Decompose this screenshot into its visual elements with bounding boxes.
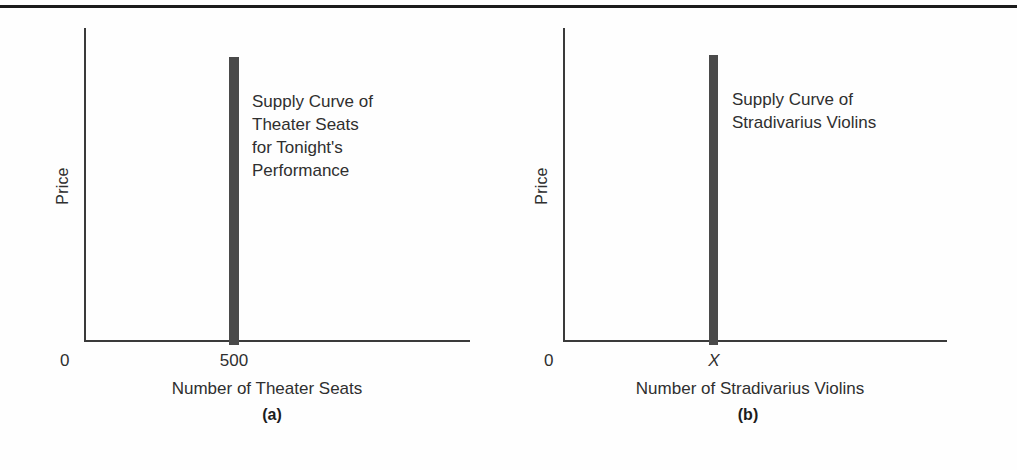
x-axis-origin-label-a: 0 — [60, 351, 69, 371]
y-axis-title-a: Price — [54, 156, 72, 216]
x-axis-tick-label-b: X — [674, 351, 754, 371]
chart-panel-b: Price Supply Curve of Stradivarius Violi… — [480, 0, 1017, 470]
x-axis-tick-label-a: 500 — [194, 351, 274, 371]
panel-caption-a: (a) — [222, 406, 322, 424]
x-axis-line-a — [84, 340, 470, 342]
supply-curve-b — [709, 55, 718, 345]
chart-panel-a: Price Supply Curve of Theater Seats for … — [0, 0, 508, 470]
supply-curve-annotation-b: Supply Curve of Stradivarius Violins — [732, 88, 876, 134]
x-axis-title-a: Number of Theater Seats — [117, 379, 417, 399]
supply-curve-a — [229, 57, 239, 345]
y-axis-line-a — [84, 28, 86, 342]
y-axis-title-b: Price — [533, 156, 551, 216]
panel-caption-b: (b) — [698, 406, 798, 424]
x-axis-origin-label-b: 0 — [544, 351, 553, 371]
y-axis-line-b — [563, 28, 565, 342]
x-axis-line-b — [563, 340, 947, 342]
figure-page: Price Supply Curve of Theater Seats for … — [0, 0, 1017, 470]
supply-curve-annotation-a: Supply Curve of Theater Seats for Tonigh… — [252, 90, 373, 182]
x-axis-title-b: Number of Stradivarius Violins — [600, 379, 900, 399]
